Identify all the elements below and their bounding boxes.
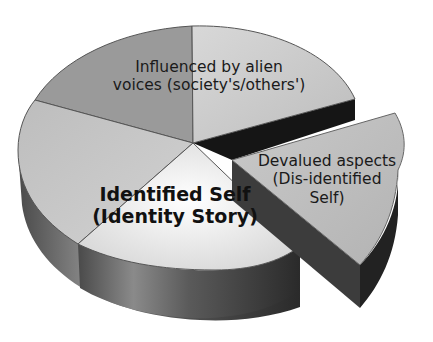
label-line: voices (society's/others') xyxy=(104,76,314,94)
label-influenced-by-alien-voices: Influenced by alien voices (society's/ot… xyxy=(104,58,314,95)
label-line: Influenced by alien xyxy=(104,58,314,76)
label-identified-self: Identified Self (Identity Story) xyxy=(70,183,280,228)
label-line: Devalued aspects xyxy=(252,152,402,170)
label-line: (Identity Story) xyxy=(70,205,280,227)
label-line: Identified Self xyxy=(70,183,280,205)
